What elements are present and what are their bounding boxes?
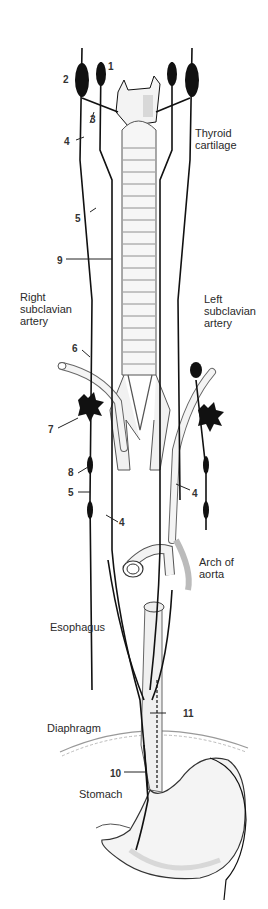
label-diaphragm: Diaphragm (47, 722, 101, 734)
label-number-8: 8 (68, 467, 74, 478)
label-number-1: 1 (108, 61, 114, 72)
label-left-subclavian-artery: Left subclavian artery (204, 293, 256, 329)
label-esophagus: Esophagus (50, 621, 105, 633)
label-number-3: 3 (90, 114, 96, 125)
label-number-10: 10 (110, 768, 121, 779)
label-arch-of-aorta: Arch of aorta (199, 556, 234, 580)
thyroid-cartilage-shape (116, 76, 160, 126)
label-number-4-left: 4 (119, 517, 125, 528)
label-number-4-top: 4 (64, 136, 70, 147)
label-number-4-right: 4 (192, 488, 198, 499)
label-stomach: Stomach (79, 788, 122, 800)
label-number-2: 2 (63, 74, 69, 85)
label-thyroid-cartilage: Thyroid cartilage (195, 127, 237, 151)
label-number-7: 7 (48, 424, 54, 435)
trachea (122, 121, 156, 375)
label-number-11: 11 (183, 708, 194, 719)
label-right-subclavian-artery: Right subclavian artery (20, 291, 72, 327)
label-number-5-top: 5 (75, 213, 81, 224)
aortic-arch (123, 540, 189, 590)
stomach-shape (96, 758, 246, 900)
label-number-9: 9 (57, 255, 63, 266)
label-number-6: 6 (72, 343, 78, 354)
label-number-5-low: 5 (68, 487, 74, 498)
